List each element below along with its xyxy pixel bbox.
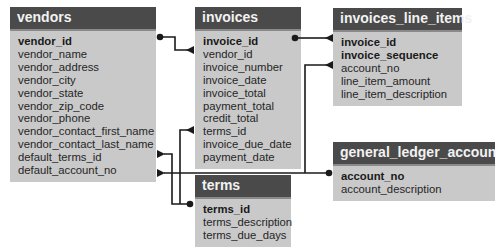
many-end-arrow-icon bbox=[325, 34, 333, 42]
many-end-arrow-icon bbox=[157, 169, 165, 177]
relationship-account-line-items bbox=[305, 65, 327, 173]
relationship-lines bbox=[0, 0, 497, 247]
many-end-arrow-icon bbox=[325, 61, 333, 69]
one-end-dot-icon bbox=[292, 35, 299, 42]
relationship-terms-invoices bbox=[180, 130, 188, 204]
one-end-dot-icon bbox=[187, 201, 194, 208]
relationship-terms-vendors bbox=[164, 154, 190, 204]
one-end-dot-icon bbox=[157, 34, 164, 41]
relationship-vendor-invoices bbox=[160, 37, 188, 50]
many-end-arrow-icon bbox=[157, 150, 165, 158]
many-end-arrow-icon bbox=[186, 46, 194, 54]
one-end-dot-icon bbox=[326, 170, 333, 177]
many-end-arrow-icon bbox=[186, 126, 194, 134]
